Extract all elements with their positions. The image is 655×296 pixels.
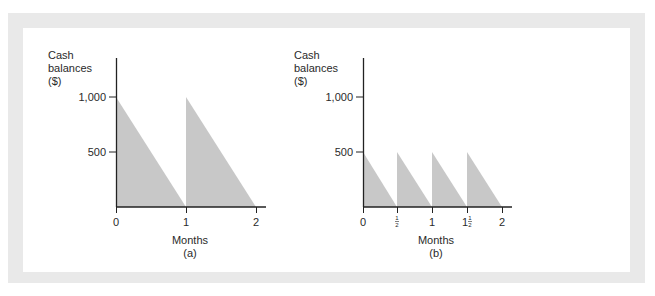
xtick-a-0: 0 (113, 216, 119, 228)
area-a-2 (186, 97, 256, 207)
xtick-a-1: 1 (183, 216, 189, 228)
xtick-b-1half-whole: 1 (462, 216, 468, 228)
area-a-1 (116, 97, 186, 207)
area-b-4 (467, 152, 502, 207)
ytick-a-1000: 1,000 (78, 91, 106, 103)
xtick-b-half-num: 1 (395, 215, 399, 221)
ylabel-b-line1: Cash (294, 49, 320, 61)
area-b-2 (397, 152, 432, 207)
charts-svg: Cash balances ($) 1,000 500 0 1 2 Months… (0, 0, 655, 296)
xtick-b-1: 1 (429, 216, 435, 228)
xlabel-a: Months (172, 234, 209, 246)
ytick-b-500: 500 (335, 146, 353, 158)
xtick-b-2: 2 (499, 216, 505, 228)
chart-b: Cash balances ($) 1,000 500 0 1 2 1 1 1 … (294, 49, 512, 259)
xtick-a-2: 2 (253, 216, 259, 228)
ylabel-b-line2: balances (294, 62, 339, 74)
caption-b: (b) (429, 247, 442, 259)
ylabel-a-line3: ($) (48, 75, 61, 87)
chart-a: Cash balances ($) 1,000 500 0 1 2 Months… (48, 49, 266, 259)
xtick-b-1half-num: 1 (468, 215, 472, 221)
area-b-1 (363, 152, 397, 207)
xtick-b-0: 0 (360, 216, 366, 228)
ytick-a-500: 500 (88, 146, 106, 158)
area-b-3 (432, 152, 467, 207)
xlabel-b: Months (418, 234, 455, 246)
xtick-b-1half-den: 2 (468, 222, 472, 228)
caption-a: (a) (183, 247, 196, 259)
ytick-b-1000: 1,000 (325, 91, 353, 103)
ylabel-a-line2: balances (48, 62, 93, 74)
ylabel-a-line1: Cash (48, 49, 74, 61)
ylabel-b-line3: ($) (294, 75, 307, 87)
xtick-b-half-den: 2 (395, 222, 399, 228)
